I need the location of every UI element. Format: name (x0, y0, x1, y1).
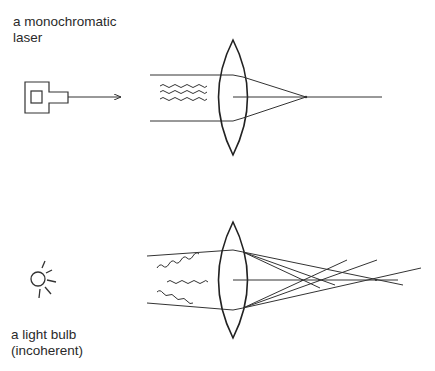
bottom-incoherent-waves (157, 253, 208, 304)
optics-diagram (0, 0, 435, 371)
top-coherent-waves (160, 85, 207, 101)
laser-icon (25, 82, 68, 113)
top-refracted-rays (233, 75, 382, 121)
top-focal-point (305, 96, 307, 98)
light-bulb-icon (31, 261, 56, 298)
bottom-refracted-rays (233, 250, 421, 310)
